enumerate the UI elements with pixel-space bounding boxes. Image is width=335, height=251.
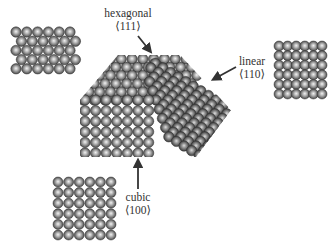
atom-icon [64,177,74,187]
atom-icon [210,145,220,155]
atom-icon [95,177,105,187]
atom-icon [64,219,74,229]
atom-icon [106,188,116,198]
atom-icon [85,209,95,219]
atom-icon [219,136,229,146]
atom-icon [11,27,21,37]
linear-index: ⟨110⟩ [232,68,272,81]
atom-icon [43,64,53,74]
atom-icon [85,230,95,240]
atom-icon [317,60,327,70]
atom-icon [53,198,63,208]
atom-icon [85,219,95,229]
cubic-name: cubic [118,191,158,204]
atom-icon [215,141,225,151]
atom-icon [234,145,244,155]
cubic-surface-panel [53,177,116,240]
atom-icon [218,150,228,160]
atom-icon [95,188,105,198]
atom-icon [94,54,104,64]
atom-icon [233,159,243,169]
atom-icon [65,45,75,55]
atom-icon [203,141,213,151]
atom-icon [133,148,143,158]
atom-icon [122,105,132,115]
atom-icon [95,219,105,229]
atom-icon [317,89,327,99]
linear-surface-panel [274,41,327,99]
atom-icon [22,27,32,37]
atom-icon [59,36,69,46]
atom-icon [43,45,53,55]
atom-icon [49,54,59,64]
atom-icon [64,209,74,219]
linear-name: linear [232,55,272,68]
hexagonal-label: hexagonal ⟨111⟩ [98,7,158,33]
atom-icon [217,164,227,174]
atom-icon [84,70,94,80]
atom-icon [54,45,64,55]
atom-icon [122,137,132,147]
atom-icon [101,137,111,147]
atom-icon [74,198,84,208]
atom-icon [143,116,153,126]
atom-icon [228,127,238,137]
atom-icon [84,54,94,64]
atom-icon [192,54,202,64]
atom-icon [106,209,116,219]
atom-icon [85,177,95,187]
atom-icon [122,116,132,126]
atom-icon [54,64,64,74]
atom-icon [85,198,95,208]
atom-icon [106,230,116,240]
atom-icon [133,95,143,105]
hexagonal-surface-panel [11,27,81,74]
atom-icon [112,105,122,115]
atom-icon [122,127,132,137]
atom-icon [85,188,95,198]
atom-icon [80,127,90,137]
atom-icon [221,159,231,169]
atom-icon [143,137,153,147]
atom-icon [112,137,122,147]
atom-icon [27,54,37,64]
atom-icon [11,45,21,55]
atom-icon [225,118,235,128]
atom-icon [90,95,100,105]
atom-icon [317,41,327,51]
atom-icon [101,95,111,105]
atom-icon [101,148,111,158]
atom-icon [232,173,242,183]
atom-icon [53,209,63,219]
atom-icon [43,27,53,37]
atom-icon [230,150,240,160]
atom-icon [53,219,63,229]
atom-icon [216,127,226,137]
atom-icon [229,164,239,174]
atom-icon [54,27,64,37]
crystal-diagram [0,0,335,251]
atom-icon [32,64,42,74]
atom-icon [74,177,84,187]
atom-icon [90,148,100,158]
atom-icon [53,230,63,240]
atom-icon [95,209,105,219]
atom-icon [11,64,21,74]
atom-icon [106,198,116,208]
atom-icon [73,87,83,97]
atom-icon [212,132,222,142]
atom-icon [53,177,63,187]
atom-icon [236,168,246,178]
atom-icon [238,155,248,165]
atom-icon [222,145,232,155]
atom-icon [80,95,90,105]
atom-icon [70,54,80,64]
atom-icon [106,177,116,187]
atom-icon [38,54,48,64]
atom-icon [240,178,250,188]
atom-icon [70,36,80,46]
atom-icon [65,64,75,74]
atom-icon [112,95,122,105]
atom-icon [143,148,153,158]
atom-icon [89,62,99,72]
